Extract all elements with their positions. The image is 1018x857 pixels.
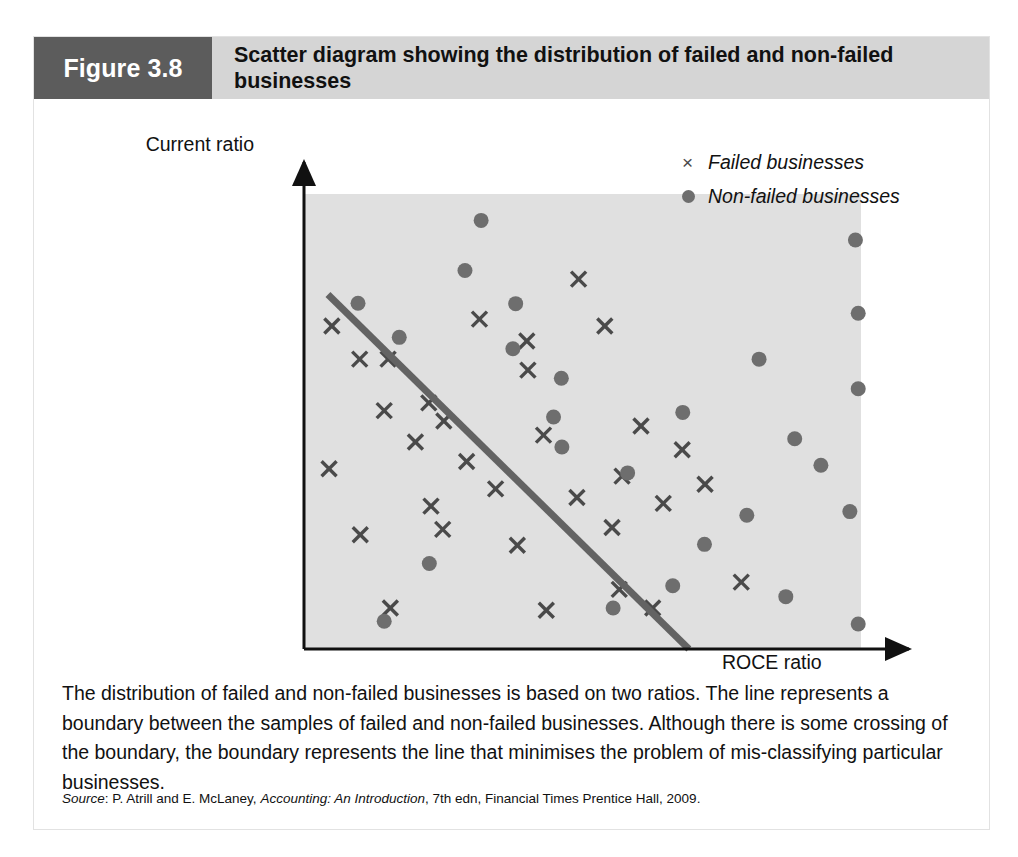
legend-item-failed: × Failed businesses	[682, 147, 900, 177]
data-point-non-failed	[752, 352, 767, 367]
data-point-non-failed	[554, 439, 569, 454]
legend-label-failed: Failed businesses	[708, 151, 864, 174]
data-point-non-failed	[474, 213, 489, 228]
x-axis-label: ROCE ratio	[722, 651, 822, 673]
figure-card: Figure 3.8 Scatter diagram showing the d…	[33, 36, 990, 830]
dot-icon	[682, 190, 708, 203]
data-point-non-failed	[665, 578, 680, 593]
data-point-non-failed	[675, 405, 690, 420]
data-point-non-failed	[546, 409, 561, 424]
data-point-non-failed	[778, 589, 793, 604]
source-authors: : P. Atrill and E. McLaney,	[105, 791, 261, 806]
data-point-non-failed	[851, 616, 866, 631]
data-point-non-failed	[851, 381, 866, 396]
cross-icon: ×	[682, 153, 708, 172]
data-point-non-failed	[377, 614, 392, 629]
legend-item-non-failed: Non-failed businesses	[682, 181, 900, 211]
chart-region: Current ratio ROCE ratio × Failed busine…	[34, 99, 989, 677]
legend-label-non-failed: Non-failed businesses	[708, 185, 900, 208]
data-point-non-failed	[813, 458, 828, 473]
data-point-non-failed	[351, 296, 366, 311]
data-point-non-failed	[842, 504, 857, 519]
data-point-non-failed	[620, 465, 635, 480]
figure-caption: The distribution of failed and non-faile…	[62, 679, 962, 798]
source-prefix: Source	[62, 791, 105, 806]
figure-source: Source: P. Atrill and E. McLaney, Accoun…	[62, 790, 962, 809]
figure-header: Figure 3.8 Scatter diagram showing the d…	[34, 37, 989, 99]
data-point-non-failed	[554, 371, 569, 386]
source-work-title: Accounting: An Introduction	[260, 791, 425, 806]
data-point-non-failed	[851, 306, 866, 321]
data-point-non-failed	[505, 341, 520, 356]
plot-background	[304, 194, 861, 649]
figure-title: Scatter diagram showing the distribution…	[212, 37, 989, 99]
data-point-non-failed	[848, 232, 863, 247]
data-point-non-failed	[457, 263, 472, 278]
data-point-non-failed	[697, 537, 712, 552]
data-point-non-failed	[392, 330, 407, 345]
chart-legend: × Failed businesses Non-failed businesse…	[682, 147, 900, 215]
data-point-non-failed	[422, 556, 437, 571]
data-point-non-failed	[508, 296, 523, 311]
data-point-non-failed	[787, 431, 802, 446]
y-axis-label: Current ratio	[144, 133, 254, 155]
data-point-non-failed	[739, 508, 754, 523]
source-publisher: , 7th edn, Financial Times Prentice Hall…	[425, 791, 700, 806]
data-point-non-failed	[606, 601, 621, 616]
figure-number-band: Figure 3.8	[34, 37, 212, 99]
